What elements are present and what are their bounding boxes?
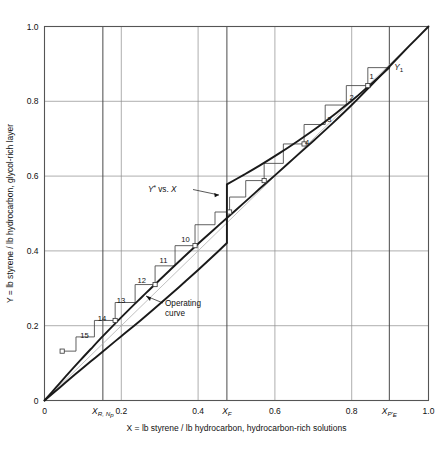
equilibrium-stage-marker <box>227 210 231 214</box>
stage-number-4: 4 <box>305 138 309 147</box>
annotation-operating-curve-line1: Operating <box>165 299 201 308</box>
operating-curve <box>227 68 389 185</box>
x-marker-label-X_F: XF <box>221 406 233 417</box>
annotation-arrow-operating <box>146 296 151 301</box>
x-marker-label-X_R,Np: XR, Np <box>91 406 114 419</box>
y-tick-label-0.8: 0.8 <box>27 96 39 106</box>
chart-canvas: 1234101112131415Y100.20.40.60.81.000.20.… <box>0 0 445 457</box>
x-marker-label-X_P'E: XP'E <box>381 406 398 419</box>
annotation-arrow-equilibrium <box>214 193 219 197</box>
terminal-label-Y1: Y1 <box>394 63 403 73</box>
y-tick-label-0.2: 0.2 <box>27 321 39 331</box>
stage-number-11: 11 <box>160 256 168 265</box>
x-tick-label-0.6: 0.6 <box>269 406 281 416</box>
equilibrium-stage-marker <box>153 282 157 286</box>
x-tick-label-0.2: 0.2 <box>115 406 127 416</box>
x-tick-label-0: 0 <box>42 406 47 416</box>
stage-number-2: 2 <box>350 93 354 102</box>
diagonal-line-45 <box>45 27 429 401</box>
equilibrium-stage-marker <box>366 83 370 87</box>
annotation-operating-curve-line2: curve <box>165 309 185 318</box>
x-tick-label-0.8: 0.8 <box>346 406 358 416</box>
stage-number-3: 3 <box>327 115 331 124</box>
stage-number-13: 13 <box>117 296 125 305</box>
stage-number-12: 12 <box>137 276 145 285</box>
equilibrium-stage-marker <box>193 244 197 248</box>
stage-number-1: 1 <box>370 72 374 81</box>
operating-curve <box>45 243 227 400</box>
styrene-extraction-stage-diagram: 1234101112131415Y100.20.40.60.81.000.20.… <box>0 0 445 457</box>
y-tick-label-0.4: 0.4 <box>27 246 39 256</box>
stage-number-14: 14 <box>98 314 106 323</box>
stage-number-10: 10 <box>181 235 189 244</box>
annotation-equilibrium-curve: Y* vs. X <box>148 184 177 195</box>
y-axis-title: Y = lb styrene / lb hydrocarbon, glycol-… <box>5 124 15 303</box>
y-tick-label-0.6: 0.6 <box>27 171 39 181</box>
stage-number-15: 15 <box>80 331 88 340</box>
equilibrium-stage-marker <box>60 349 64 353</box>
x-tick-label-0.4: 0.4 <box>192 406 204 416</box>
x-axis-title: X = lb styrene / lb hydrocarbon, hydroca… <box>127 423 347 433</box>
y-tick-label-0: 0 <box>34 396 39 406</box>
equilibrium-stage-marker <box>113 318 117 322</box>
y-tick-label-1.0: 1.0 <box>27 22 39 32</box>
equilibrium-stage-marker <box>262 178 266 182</box>
x-tick-label-1.0: 1.0 <box>423 406 435 416</box>
